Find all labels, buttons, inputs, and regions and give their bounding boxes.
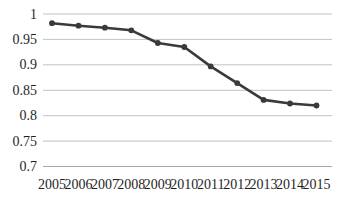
y-tick-label: 0.85: [13, 83, 38, 98]
x-tick-label: 2008: [117, 177, 145, 192]
data-point-2015: [314, 103, 320, 109]
y-tick-label: 0.7: [20, 159, 38, 174]
x-tick-label: 2013: [250, 177, 278, 192]
y-tick-label: 0.95: [13, 32, 38, 47]
x-tick-label: 2005: [38, 177, 66, 192]
data-point-2005: [49, 20, 55, 26]
x-tick-label: 2014: [276, 177, 304, 192]
x-tick-label: 2012: [223, 177, 251, 192]
x-tick-label: 2015: [303, 177, 331, 192]
data-point-2014: [287, 101, 293, 107]
data-point-2010: [181, 44, 187, 50]
data-point-2013: [261, 97, 267, 103]
x-tick-label: 2006: [65, 177, 93, 192]
line-chart: 10.950.90.850.80.750.7200520062007200820…: [0, 0, 340, 202]
data-point-2012: [234, 80, 240, 86]
data-point-2009: [155, 40, 161, 46]
y-tick-label: 0.8: [20, 108, 38, 123]
data-point-2007: [102, 25, 108, 31]
line-chart-svg: 10.950.90.850.80.750.7200520062007200820…: [0, 0, 340, 202]
data-point-2008: [128, 27, 134, 33]
x-tick-label: 2010: [170, 177, 198, 192]
x-tick-label: 2011: [197, 177, 224, 192]
y-tick-label: 0.75: [13, 134, 38, 149]
y-tick-label: 1: [30, 7, 37, 22]
y-tick-label: 0.9: [20, 57, 38, 72]
data-point-2011: [208, 64, 214, 70]
x-tick-label: 2007: [91, 177, 119, 192]
x-tick-label: 2009: [144, 177, 172, 192]
data-point-2006: [76, 23, 82, 29]
